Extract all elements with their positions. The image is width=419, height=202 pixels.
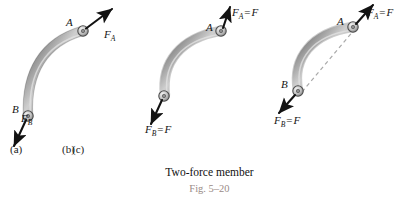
force-label-a: FA=F	[232, 7, 258, 21]
force-label-b: FB	[21, 113, 32, 127]
joint-label-a: A	[66, 17, 73, 28]
force-a-symbol: F	[232, 6, 239, 18]
force-a-symbol: F	[367, 6, 374, 18]
force-label-b: FB=F	[145, 124, 171, 138]
figure-two-force-member: A B FA FB	[0, 0, 419, 202]
panel-label-a: (a)	[10, 143, 50, 155]
force-arrow-b	[279, 95, 295, 113]
force-b-equals: =	[156, 123, 164, 135]
force-a-value: F	[252, 6, 259, 18]
force-b-symbol: F	[21, 112, 28, 124]
panel-c: A B FA=F FB=F	[268, 0, 408, 170]
force-label-a: FA	[104, 29, 115, 43]
force-label-a: FA=F	[367, 7, 393, 21]
pin-joint-a-center	[219, 29, 222, 32]
figure-caption: Two-force member	[0, 166, 419, 178]
force-arrow-a	[223, 7, 230, 28]
pin-joint-b-center	[162, 94, 165, 97]
panel-label-c: (c)	[72, 143, 112, 155]
curved-member	[297, 27, 352, 90]
force-a-value: F	[387, 6, 394, 18]
force-label-b: FB=F	[274, 115, 300, 129]
panel-b: A FA=F FB=F	[133, 0, 273, 170]
figure-number: Fig. 5–20	[0, 183, 419, 194]
pin-joint-b-center	[296, 89, 299, 92]
panel-b-drawing	[133, 0, 273, 170]
force-b-symbol: F	[274, 114, 281, 126]
force-b-equals: =	[285, 114, 293, 126]
force-b-value: F	[294, 114, 301, 126]
joint-label-b: B	[281, 79, 288, 90]
force-b-symbol: F	[145, 123, 152, 135]
force-arrow-a	[86, 9, 112, 29]
pin-joint-a-center	[81, 29, 84, 32]
joint-label-b: B	[12, 104, 19, 115]
force-arrow-b	[151, 100, 162, 124]
joint-label-a: A	[206, 22, 213, 33]
pin-joint-a-center	[351, 25, 354, 28]
force-a-equals: =	[378, 6, 386, 18]
force-b-subscript: B	[28, 118, 33, 127]
force-a-subscript: A	[111, 34, 116, 43]
force-a-symbol: F	[104, 28, 111, 40]
joint-label-a: A	[337, 16, 344, 27]
force-a-equals: =	[243, 6, 251, 18]
force-b-value: F	[165, 123, 172, 135]
